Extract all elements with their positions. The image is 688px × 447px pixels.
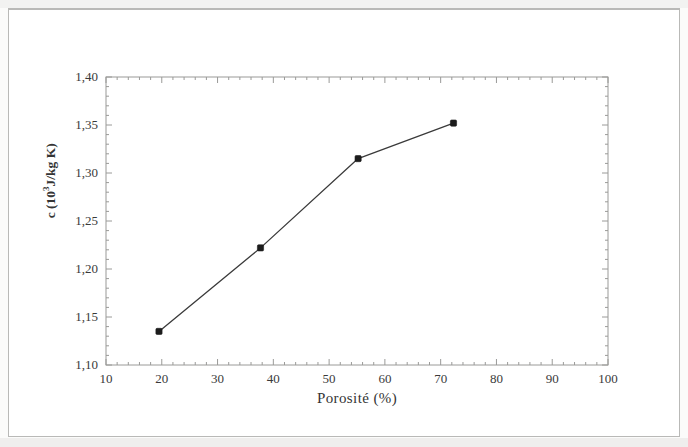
- y-tick-label: 1,10: [52, 357, 98, 373]
- data-point-marker: [257, 245, 263, 251]
- x-tick-label: 70: [419, 371, 463, 387]
- x-tick-label: 60: [363, 371, 407, 387]
- y-tick-label: 1,15: [52, 309, 98, 325]
- y-axis-title-suffix: J/kg K): [43, 143, 58, 186]
- scanned-page: 102030405060708090100 1,101,151,201,251,…: [0, 0, 688, 447]
- x-tick-label: 80: [474, 371, 518, 387]
- axis-ticks: [106, 77, 608, 365]
- axes-frame: [106, 77, 608, 365]
- x-tick-label: 40: [251, 371, 295, 387]
- x-tick-label: 90: [530, 371, 574, 387]
- x-tick-label: 30: [196, 371, 240, 387]
- x-tick-label: 10: [84, 371, 128, 387]
- y-tick-label: 1,20: [52, 261, 98, 277]
- y-tick-label: 1,40: [52, 69, 98, 85]
- series-line: [159, 123, 454, 331]
- data-point-marker: [156, 328, 162, 334]
- chart-figure: 102030405060708090100 1,101,151,201,251,…: [0, 0, 688, 447]
- x-tick-label: 50: [307, 371, 351, 387]
- y-axis-title-prefix: c (10: [43, 191, 58, 218]
- data-series: [156, 120, 457, 335]
- x-tick-label: 20: [140, 371, 184, 387]
- x-tick-label: 100: [586, 371, 630, 387]
- data-point-marker: [450, 120, 456, 126]
- y-axis-title-exponent: 3: [41, 186, 51, 191]
- y-tick-label: 1,35: [52, 117, 98, 133]
- data-point-marker: [355, 156, 361, 162]
- y-axis-title-wrap: c (103J/kg K): [41, 71, 59, 291]
- y-axis-title: c (103J/kg K): [41, 71, 59, 291]
- y-tick-label: 1,30: [52, 165, 98, 181]
- y-tick-label: 1,25: [52, 213, 98, 229]
- x-axis-title: Porosité (%): [106, 390, 608, 407]
